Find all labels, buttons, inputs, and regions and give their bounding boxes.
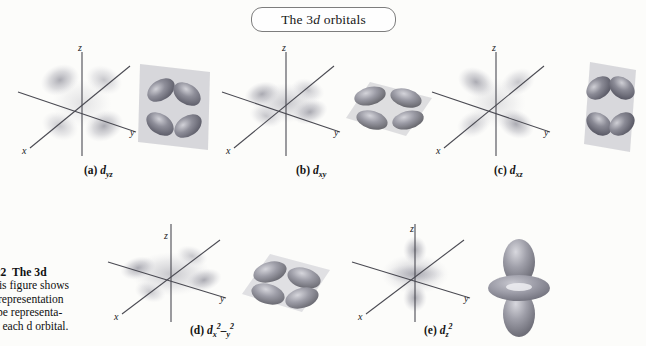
axis-label-z: z [77,42,82,53]
axis-label-z: z [491,42,496,53]
shape-render-dxz [574,58,646,158]
dot-plot-dx2y2-z-label: z [162,228,182,244]
shape-render-dz2 [482,236,556,340]
figure-title-text: The 3d orbitals [281,12,366,28]
figure-caption-line-2: This figure shows [0,279,104,292]
shape-render-dx2y2 [236,248,336,322]
orbital-caption-dyz: (a) dyz [84,164,113,179]
figure-page: The 3d orbitals [0,0,646,346]
axis-label-x: x [113,311,119,322]
dot-plot-dxz: z y x [432,44,558,162]
figure-caption-line-3: ot representation [0,293,104,306]
figure-caption-line-4: hape representa- [0,306,104,319]
axis-label-y: y [463,293,469,304]
figure-caption-line-5: for each d orbital. [0,320,104,333]
shape-render-dxy-svg [340,74,438,146]
orbital-caption-dx2y2: (d) dx2–y2 [190,322,234,339]
svg-text:z: z [163,230,168,241]
axis-label-x: x [357,311,363,322]
axis-label-z: z [409,223,414,234]
dot-plot-dz2-svg: z y x [352,222,478,326]
figure-caption: 9.22 The 3d This figure shows ot represe… [0,266,104,333]
axis-label-z: z [281,42,286,53]
shape-render-dz2-svg [482,236,556,340]
dot-plot-dz2: z y x [352,222,478,326]
dot-plot-dxz-svg: z y x [432,44,558,162]
dot-plot-dyz-svg: z y x [18,44,144,162]
figure-caption-line-1: 9.22 The 3d [0,266,104,279]
axis-label-y: y [219,293,225,304]
shape-render-dxz-svg [574,58,646,158]
axis-label-y: y [333,127,339,138]
orbital-caption-dxz: (c) dxz [494,164,523,179]
shape-render-dxy [340,74,438,146]
axis-label-y: y [543,127,549,138]
dot-plot-dxy: z y x [222,44,348,162]
axis-label-x: x [435,145,441,156]
axis-label-x: x [21,145,27,156]
shape-render-dyz [134,58,214,156]
dot-plot-dyz: z y x [18,44,144,162]
shape-render-dx2y2-svg [236,248,336,322]
figure-title-badge: The 3d orbitals [251,7,396,32]
axis-label-x: x [225,145,231,156]
dot-plot-dxy-svg: z y x [222,44,348,162]
shape-render-dyz-svg [134,58,214,156]
orbital-caption-dxy: (b) dxy [296,164,326,179]
orbital-caption-dz2: (e) dz2 [424,322,453,339]
